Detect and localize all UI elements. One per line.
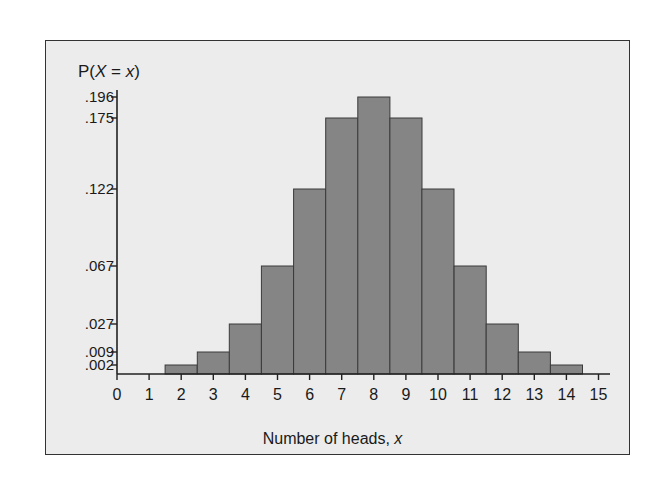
x-tick-label: 7: [327, 386, 357, 404]
x-tick-label: 8: [359, 386, 389, 404]
x-tick-label: 15: [584, 386, 614, 404]
y-tick-label: .002: [64, 357, 114, 373]
bar-x-4: [229, 324, 261, 374]
x-tick-label: 5: [263, 386, 293, 404]
x-axis-title-text: Number of heads,: [263, 430, 395, 447]
x-tick-label: 10: [423, 386, 453, 404]
bar-x-8: [358, 97, 390, 374]
x-tick-label: 6: [295, 386, 325, 404]
x-tick-label: 2: [166, 386, 196, 404]
x-axis-title: Number of heads, x: [0, 430, 665, 448]
bar-x-13: [518, 352, 550, 374]
y-tick-label: .175: [64, 110, 114, 126]
bar-x-10: [422, 189, 454, 374]
y-tick-label: .122: [64, 181, 114, 197]
x-tick-label: 13: [519, 386, 549, 404]
y-tick-label: .067: [64, 258, 114, 274]
x-tick-label: 9: [391, 386, 421, 404]
bar-x-3: [197, 352, 229, 374]
x-tick-label: 12: [487, 386, 517, 404]
bar-x-2: [165, 365, 197, 374]
bar-x-11: [454, 266, 486, 374]
bar-x-5: [261, 266, 293, 374]
bar-x-9: [390, 118, 422, 374]
x-tick-label: 11: [455, 386, 485, 404]
bar-x-14: [550, 365, 582, 374]
plot-area: [0, 0, 665, 488]
y-tick-label: .027: [64, 316, 114, 332]
x-tick-label: 3: [198, 386, 228, 404]
bar-x-12: [486, 324, 518, 374]
bar-x-7: [326, 118, 358, 374]
bar-x-6: [294, 189, 326, 374]
x-tick-label: 14: [551, 386, 581, 404]
x-tick-label: 1: [134, 386, 164, 404]
x-tick-label: 0: [102, 386, 132, 404]
x-tick-label: 4: [230, 386, 260, 404]
x-axis-title-var: x: [394, 430, 402, 447]
y-tick-label: .196: [64, 89, 114, 105]
